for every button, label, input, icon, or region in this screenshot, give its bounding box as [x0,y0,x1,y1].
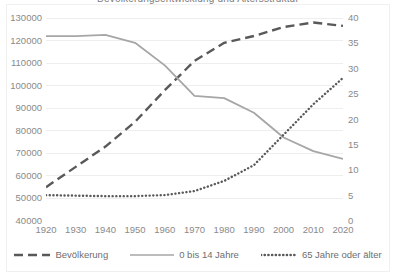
y-left-tick-label: 70000 [0,148,42,158]
y-left-tick-label: 130000 [0,13,42,23]
y-left-tick-label: 110000 [0,58,42,68]
legend-item[interactable]: 65 Jahre oder älter [261,249,382,260]
y-right-tick-label: 10 [348,165,388,175]
y-left-tick-label: 120000 [0,36,42,46]
legend-swatch-dotted-icon [261,251,297,259]
y-right-tick-label: 5 [348,191,388,201]
legend-swatch-solid-icon [130,251,174,259]
chart-title: Bevölkerungsentwicklung und Altersstrukt… [0,0,396,5]
y-left-tick-label: 80000 [0,126,42,136]
y-left-tick-label: 60000 [0,171,42,181]
x-tick-label: 2020 [325,225,361,235]
y-right-tick-label: 40 [348,13,388,23]
legend-item[interactable]: Bevölkerung [14,249,108,260]
y-right-tick-label: 15 [348,140,388,150]
legend-label: Bevölkerung [55,249,108,260]
plot-svg [46,18,343,221]
plot-area [46,18,343,221]
y-right-tick-label: 30 [348,64,388,74]
chart-container: Bevölkerungsentwicklung und Altersstrukt… [0,0,396,278]
y-left-tick-label: 90000 [0,103,42,113]
y-left-tick-label: 50000 [0,193,42,203]
y-right-tick-label: 20 [348,115,388,125]
y-right-tick-label: 35 [348,38,388,48]
legend-item[interactable]: 0 bis 14 Jahre [130,249,239,260]
chart-legend: Bevölkerung0 bis 14 Jahre65 Jahre oder ä… [0,249,396,260]
legend-label: 0 bis 14 Jahre [179,249,239,260]
y-left-tick-label: 100000 [0,81,42,91]
y-right-tick-label: 25 [348,89,388,99]
legend-label: 65 Jahre oder älter [302,249,382,260]
series-line-1 [46,23,343,188]
legend-swatch-dashed-icon [14,251,50,259]
series-line-2 [46,35,343,159]
series-lines [46,23,343,197]
